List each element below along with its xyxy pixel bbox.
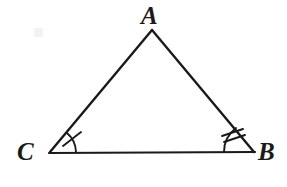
- angle-mark-b: [222, 128, 245, 152]
- side-ab: [152, 30, 254, 152]
- geometry-figure: A C B: [0, 0, 287, 187]
- vertex-label-b: B: [258, 139, 275, 164]
- side-ca: [50, 30, 152, 152]
- vertex-label-c: C: [17, 139, 34, 164]
- vertex-label-a: A: [141, 3, 158, 28]
